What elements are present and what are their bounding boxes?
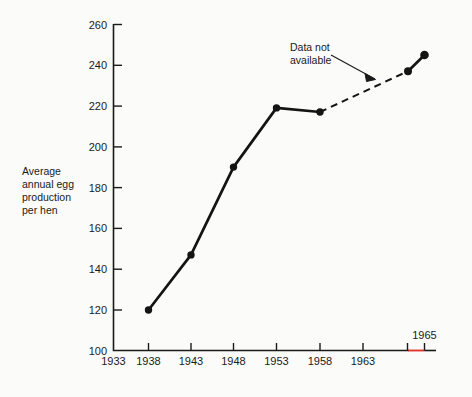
x-tick-label-1965: 1965 xyxy=(412,329,436,341)
x-tick-label-1938: 1938 xyxy=(136,355,160,367)
data-series xyxy=(145,51,429,314)
annotation-arrowhead-icon xyxy=(365,74,376,82)
y-axis-label-line-1: Average xyxy=(22,165,61,177)
data-point-1943 xyxy=(187,251,194,258)
x-tick-label-1948: 1948 xyxy=(221,355,245,367)
y-axis-label-line-3: production xyxy=(22,191,71,203)
y-tick-label-260: 260 xyxy=(89,19,107,31)
y-tick-label-160: 160 xyxy=(89,222,107,234)
y-axis-label: Average annual egg production per hen xyxy=(22,165,74,216)
x-tick-label-1963: 1963 xyxy=(351,355,375,367)
series-segment-solid-1938-1958 xyxy=(149,108,321,310)
axes xyxy=(114,24,437,351)
y-axis-label-line-2: annual egg xyxy=(22,178,74,190)
data-point-1953 xyxy=(273,104,280,111)
chart-container: Average annual egg production per hen 26… xyxy=(0,0,472,397)
x-tick-label-1958: 1958 xyxy=(308,355,332,367)
y-tick-label-240: 240 xyxy=(89,59,107,71)
data-point-1963 xyxy=(404,67,412,75)
egg-production-line-chart: Average annual egg production per hen 26… xyxy=(0,0,472,397)
data-point-1958 xyxy=(316,108,323,115)
series-segment-dashed-data-not-available xyxy=(320,71,408,112)
y-axis-label-line-4: per hen xyxy=(22,204,58,216)
annotation-data-not-available: Data not available xyxy=(290,41,376,82)
x-tick-label-1943: 1943 xyxy=(179,355,203,367)
annotation-line-1: Data not xyxy=(290,41,330,53)
y-tick-label-120: 120 xyxy=(89,304,107,316)
x-tick-label-1953: 1953 xyxy=(264,355,288,367)
data-point-1948 xyxy=(230,163,237,170)
data-point-1938 xyxy=(145,306,152,313)
x-tick-label-1933: 1933 xyxy=(101,355,125,367)
y-tick-label-140: 140 xyxy=(89,263,107,275)
y-axis-ticks xyxy=(114,25,123,311)
y-tick-label-180: 180 xyxy=(89,182,107,194)
x-axis-ticks xyxy=(149,343,425,351)
y-tick-label-220: 220 xyxy=(89,100,107,112)
y-axis-tick-labels: 260 240 220 200 180 160 140 120 100 xyxy=(89,19,107,357)
y-tick-label-200: 200 xyxy=(89,141,107,153)
data-point-1965 xyxy=(420,51,429,60)
x-axis-tick-labels: 1933 1938 1943 1948 1953 1958 1963 1965 xyxy=(101,329,436,367)
annotation-line-2: available xyxy=(290,54,332,66)
